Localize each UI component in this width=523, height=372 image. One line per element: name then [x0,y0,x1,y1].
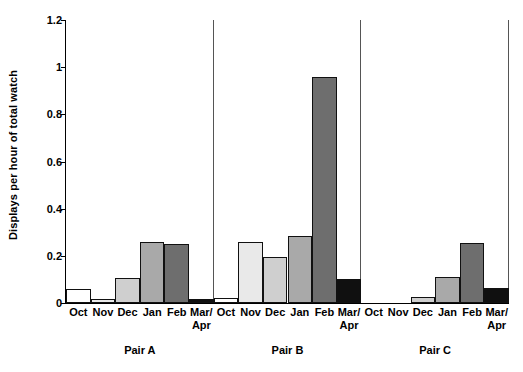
y-axis-title-text: Displays per hour of total watch [7,70,19,240]
x-label-line1: Mar/ [485,306,508,318]
bar [66,289,91,303]
plot-area: 00.20.40.60.811.2 [66,20,509,303]
bar [91,299,116,303]
bar [312,77,337,303]
group-label: Pair C [361,344,509,356]
x-label-line2: Apr [473,319,521,332]
bar [263,257,288,303]
group-separator [360,20,361,303]
x-axis-line [66,303,509,304]
y-tick-label: 1 [56,61,62,73]
bar [337,279,362,303]
bar [484,288,509,303]
bar [214,298,239,303]
group-separator [508,20,509,303]
bar [288,236,313,303]
bar [435,277,460,303]
group-separator [213,20,214,303]
y-tick-label: 0.4 [47,203,62,215]
x-label-line2: Apr [177,319,225,332]
group-label: Pair B [214,344,362,356]
y-tick-label: 0.2 [47,250,62,262]
y-tick-label: 1.2 [47,14,62,26]
y-axis-title: Displays per hour of total watch [0,0,26,310]
bar [411,297,436,303]
bar [460,243,485,303]
bar [238,242,263,303]
x-axis-label: Mar/Apr [473,306,521,332]
x-label-line2: Apr [325,319,373,332]
bar [115,278,140,303]
group-label: Pair A [66,344,214,356]
y-tick-label: 0.8 [47,108,62,120]
bar [164,244,189,303]
bar [140,242,165,303]
bar [189,299,214,303]
bar-chart: Displays per hour of total watch 00.20.4… [0,0,523,372]
y-tick-label: 0.6 [47,156,62,168]
